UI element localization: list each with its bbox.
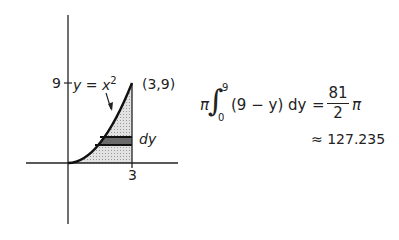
curve-label-text: y = x <box>73 77 110 93</box>
integral-lower-limit: 0 <box>218 113 224 123</box>
curve-label-exponent: 2 <box>110 75 116 86</box>
integrand: (9 − y) dy <box>231 98 306 113</box>
equals-sign: = <box>312 98 325 113</box>
x-tick-label: 3 <box>128 168 137 182</box>
curve-label: y = x2 <box>73 76 117 92</box>
fraction-denominator: 2 <box>327 106 349 121</box>
shaded-region <box>68 83 132 163</box>
y-tick-label: 9 <box>52 76 61 90</box>
fraction-numerator: 81 <box>327 86 349 101</box>
point-label: (3,9) <box>142 77 175 91</box>
approx-value: ≈ 127.235 <box>311 132 385 146</box>
formula-pi-suffix: π <box>352 98 361 113</box>
fraction: 81 2 <box>327 86 349 121</box>
integral-upper-limit: 9 <box>222 83 228 93</box>
strip-label: dy <box>139 132 156 146</box>
